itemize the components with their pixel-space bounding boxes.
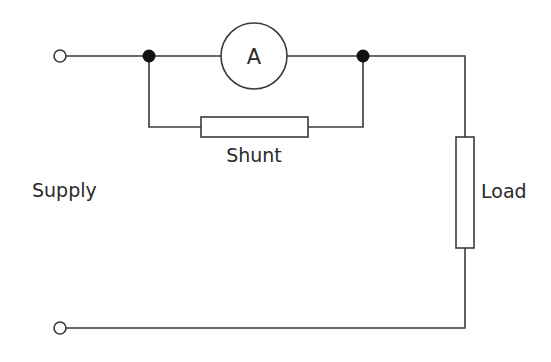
- wire-shunt-left: [149, 56, 201, 127]
- wire-shunt-right: [308, 56, 363, 127]
- supply-label: Supply: [32, 179, 97, 201]
- wire-bottom: [66, 248, 465, 328]
- load-resistor: [456, 137, 474, 248]
- wire-top-right: [363, 56, 465, 137]
- ammeter-label: A: [247, 45, 262, 69]
- shunt-resistor: [201, 117, 308, 137]
- terminal-top: [54, 50, 66, 62]
- junction-left: [143, 50, 156, 63]
- junction-right: [357, 50, 370, 63]
- terminal-bottom: [54, 322, 66, 334]
- shunt-label: Shunt: [226, 144, 282, 166]
- circuit-diagram: A Shunt Supply Load: [0, 0, 551, 362]
- load-label: Load: [481, 180, 527, 202]
